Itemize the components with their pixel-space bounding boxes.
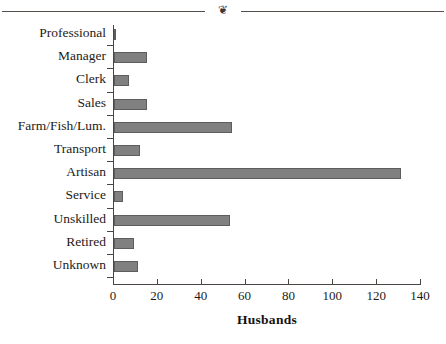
- y-axis-tick: [107, 115, 114, 116]
- category-label-transport: Transport: [0, 142, 106, 156]
- x-axis-tick-label-0: 0: [93, 288, 133, 304]
- y-axis-tick: [107, 254, 114, 255]
- x-axis-tick: [332, 279, 333, 285]
- floral-ornament-icon: ❦: [205, 0, 241, 20]
- bar-clerk: [114, 75, 129, 86]
- y-axis-tick: [107, 184, 114, 185]
- bar-unknown: [114, 261, 138, 272]
- bar-manager: [114, 52, 147, 63]
- y-axis-tick: [107, 161, 114, 162]
- bar-artisan: [114, 168, 401, 179]
- x-axis-tick-label-20: 20: [137, 288, 177, 304]
- x-axis-title: Husbands: [113, 312, 421, 328]
- x-axis-tick: [288, 279, 289, 285]
- y-axis-tick: [107, 68, 114, 69]
- x-axis-tick: [376, 279, 377, 285]
- bar-chart: ProfessionalManagerClerkSalesFarm/Fish/L…: [0, 20, 446, 344]
- header-ornamental-divider: ❦: [0, 0, 446, 20]
- category-label-unknown: Unknown: [0, 258, 106, 272]
- x-axis-tick: [201, 279, 202, 285]
- x-axis-tick: [420, 279, 421, 285]
- bar-service: [114, 191, 123, 202]
- divider-line-right: [241, 11, 444, 12]
- bar-sales: [114, 99, 147, 110]
- bar-farm-fish-lum: [114, 122, 232, 133]
- x-axis-tick-label-140: 140: [400, 288, 440, 304]
- x-axis-tick-label-60: 60: [225, 288, 265, 304]
- bar-retired: [114, 238, 134, 249]
- y-axis-tick: [107, 138, 114, 139]
- bar-unskilled: [114, 215, 230, 226]
- divider-line-left: [2, 11, 205, 12]
- category-label-clerk: Clerk: [0, 72, 106, 86]
- category-label-manager: Manager: [0, 49, 106, 63]
- category-label-professional: Professional: [0, 26, 106, 40]
- x-axis-tick-label-40: 40: [181, 288, 221, 304]
- y-axis-tick: [107, 208, 114, 209]
- x-axis-tick: [245, 279, 246, 285]
- category-label-retired: Retired: [0, 235, 106, 249]
- y-axis-tick: [107, 231, 114, 232]
- category-label-sales: Sales: [0, 96, 106, 110]
- category-label-unskilled: Unskilled: [0, 212, 106, 226]
- x-axis-tick-label-120: 120: [356, 288, 396, 304]
- bar-transport: [114, 145, 140, 156]
- y-axis-tick: [107, 92, 114, 93]
- category-label-farm-fish-lum: Farm/Fish/Lum.: [0, 119, 106, 133]
- y-axis-tick: [107, 45, 114, 46]
- x-axis-tick-label-80: 80: [268, 288, 308, 304]
- x-axis-tick: [157, 279, 158, 285]
- x-axis-line: [113, 284, 421, 285]
- bar-professional: [114, 29, 116, 40]
- category-label-service: Service: [0, 188, 106, 202]
- x-axis-tick: [113, 279, 114, 285]
- x-axis-tick-label-100: 100: [312, 288, 352, 304]
- category-label-artisan: Artisan: [0, 165, 106, 179]
